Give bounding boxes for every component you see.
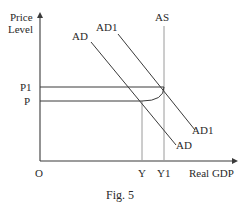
y-axis-arrow-icon (37, 12, 43, 18)
y1-label: Y1 (157, 168, 170, 179)
ad-curve (91, 42, 176, 145)
y-axis-label: Price (10, 12, 33, 23)
ad1-label-bottom: AD1 (192, 125, 213, 136)
y-label: Y (138, 168, 146, 179)
ad1-label-top: AD1 (96, 22, 117, 33)
p1-label: P1 (20, 82, 32, 93)
as-curve-bend (142, 87, 164, 101)
x-axis-arrow-icon (232, 158, 238, 164)
x-axis-label: Real GDP (189, 168, 234, 179)
origin-label: O (35, 168, 43, 179)
figure-caption: Fig. 5 (106, 190, 134, 201)
ad-label-bottom: AD (176, 140, 192, 151)
y-axis-label-line2: Level (8, 24, 33, 35)
ad1-curve (118, 34, 195, 130)
as-label: AS (155, 12, 169, 23)
p-label: P (24, 96, 30, 107)
ad-label-top: AD (72, 31, 88, 42)
